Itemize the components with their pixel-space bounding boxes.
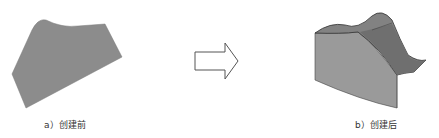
- before-surface-shape: [12, 20, 122, 108]
- diagram-canvas: a）创建前 b）创建后: [0, 0, 439, 138]
- after-solid-shape: [315, 13, 426, 110]
- before-caption: a）创建前: [44, 118, 86, 131]
- after-caption: b）创建后: [355, 118, 397, 131]
- right-arrow-icon: [195, 43, 238, 79]
